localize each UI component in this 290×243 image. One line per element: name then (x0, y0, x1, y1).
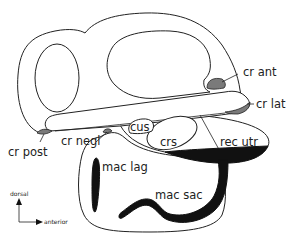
label-dorsal: dorsal (10, 190, 29, 197)
label-mac-lag: mac lag (102, 160, 148, 174)
cr-post-leader (40, 134, 44, 142)
diagram-canvas: cr ant cr lat cr post cr negl cus crs re… (0, 0, 290, 243)
crista-neglecta (103, 129, 112, 133)
label-mac-sac: mac sac (155, 188, 203, 202)
anterior-arrow-icon (36, 219, 43, 225)
label-cus: cus (130, 120, 150, 134)
label-cr-post: cr post (8, 145, 48, 159)
label-cr-lat: cr lat (256, 97, 286, 111)
label-cr-ant: cr ant (243, 65, 277, 79)
label-cr-negl: cr negl (61, 134, 101, 148)
label-rec-utr: rec utr (220, 135, 258, 149)
dorsal-arrow-icon (16, 198, 22, 205)
label-anterior: anterior (44, 218, 68, 225)
label-crs: crs (160, 135, 177, 149)
anterior-canal-lumen (107, 31, 210, 99)
inner-ear-diagram: cr ant cr lat cr post cr negl cus crs re… (0, 0, 290, 243)
orientation-compass: dorsal anterior (10, 190, 68, 225)
posterior-canal-lumen (35, 44, 79, 112)
